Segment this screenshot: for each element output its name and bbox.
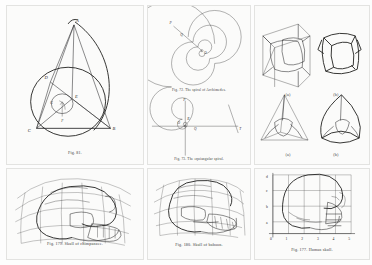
equiangular-spiral: P O R Q T xyxy=(148,6,242,156)
axis-tick-labels: 0 1 2 3 4 5 a b c d xyxy=(266,175,350,242)
solid-tetra-curved xyxy=(321,95,361,143)
panel-polyhedra: x (a) (b) (a) (b) xyxy=(254,5,370,165)
cartesian-grid xyxy=(269,173,355,238)
label-solid-b-top: (b) xyxy=(303,92,369,97)
human-skull-outline xyxy=(282,174,345,229)
label-spiral-q: Q xyxy=(180,33,183,37)
label-point-d: D xyxy=(43,75,48,80)
label-point-f: F xyxy=(60,119,64,123)
solid-cube-shaded xyxy=(318,33,361,73)
label-point-a: A xyxy=(75,18,79,23)
ytick-a: a xyxy=(266,221,268,225)
ytick-d: d xyxy=(266,175,268,179)
label-point-e: E xyxy=(74,94,78,99)
panel-fig-180: Fig. 180. Skull of baboon. xyxy=(147,168,251,260)
label-point-g: G xyxy=(50,101,53,105)
xtick-1: 1 xyxy=(286,237,288,241)
archimedean-spiral: P Q O xyxy=(169,10,242,85)
panel-fig-81: A B C D E F G Fig. 81. xyxy=(6,5,144,165)
polyhedra-drawings: x xyxy=(255,6,369,164)
xtick-4: 4 xyxy=(333,237,335,241)
fig-177-drawing: 0 1 2 3 4 5 a b c d xyxy=(255,169,369,259)
chimp-skull-outline xyxy=(37,186,121,242)
caption-archimedean: Fig. 72. The spiral of Archimedes. xyxy=(148,88,250,92)
xtick-3: 3 xyxy=(317,237,319,241)
label-spiral-o: O xyxy=(204,51,207,55)
spiral-drawings: P Q O P O R Q T xyxy=(148,6,250,164)
solid-cube-wireframe xyxy=(263,24,310,87)
fig-81-drawing: A B C D E F G xyxy=(7,6,143,164)
deformed-grid-chimp xyxy=(15,179,130,246)
label-eq-q: Q xyxy=(194,127,197,131)
label-point-b: B xyxy=(112,126,115,131)
caption-fig-180: Fig. 180. Skull of baboon. xyxy=(148,242,250,247)
label-eq-t: T xyxy=(239,127,242,131)
panel-fig-177: 0 1 2 3 4 5 a b c d Fig. 177. Human skul… xyxy=(254,168,370,260)
solid-tetra-wireframe xyxy=(261,95,308,140)
xtick-2: 2 xyxy=(301,237,303,241)
caption-fig-81: Fig. 81. xyxy=(7,150,143,155)
label-point-c: C xyxy=(28,128,32,133)
xtick-0: 0 xyxy=(270,237,272,241)
panel-fig-179: Fig. 179. Skull of chimpanzee. xyxy=(6,168,144,260)
caption-fig-177: Fig. 177. Human skull. xyxy=(255,247,369,252)
ytick-c: c xyxy=(266,189,268,193)
label-solid-b-bottom: (b) xyxy=(303,152,369,157)
ytick-b: b xyxy=(266,205,268,209)
caption-fig-179: Fig. 179. Skull of chimpanzee. xyxy=(7,241,143,246)
caption-equiangular: Fig. 73. The equiangular spiral. xyxy=(148,157,250,161)
panel-spirals: P Q O P O R Q T Fig. 72. The spiral of A… xyxy=(147,5,251,165)
figure-plate: A B C D E F G Fig. 81. P Q O xyxy=(0,0,372,265)
label-eq-o: O xyxy=(177,121,180,125)
xtick-5: 5 xyxy=(348,237,350,241)
deformed-grid-baboon xyxy=(154,179,245,238)
label-spiral-p: P xyxy=(169,21,173,25)
